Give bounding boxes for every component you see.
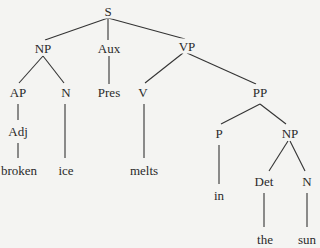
tree-node-n1: N bbox=[59, 85, 72, 100]
tree-node-n2: N bbox=[300, 174, 313, 189]
edge-vp-pp bbox=[187, 53, 256, 84]
tree-node-the: the bbox=[255, 232, 275, 247]
edge-np1-n1 bbox=[43, 56, 64, 83]
tree-node-det: Det bbox=[253, 174, 276, 189]
tree-node-ice: ice bbox=[56, 163, 75, 178]
tree-node-aux: Aux bbox=[96, 41, 122, 56]
tree-node-in: in bbox=[212, 188, 226, 203]
edge-pp-np2 bbox=[260, 104, 286, 124]
edge-s-vp bbox=[108, 18, 185, 39]
tree-node-np2: NP bbox=[280, 126, 301, 141]
tree-node-np1: NP bbox=[33, 41, 54, 56]
tree-node-adj: Adj bbox=[6, 124, 30, 139]
tree-node-broken: broken bbox=[0, 163, 39, 178]
edge-pp-p bbox=[221, 104, 260, 124]
tree-node-p: P bbox=[213, 126, 224, 141]
edge-np2-det bbox=[269, 141, 288, 171]
tree-node-pres: Pres bbox=[96, 85, 122, 100]
edge-vp-v bbox=[145, 53, 183, 83]
tree-node-s: S bbox=[102, 4, 113, 19]
edge-np1-ap bbox=[19, 56, 43, 83]
tree-node-pp: PP bbox=[251, 85, 269, 100]
tree-node-sun: sun bbox=[296, 232, 318, 247]
syntax-tree-diagram bbox=[0, 0, 320, 248]
edge-np2-n2 bbox=[290, 141, 305, 171]
tree-node-vp: VP bbox=[177, 39, 198, 54]
tree-node-melts: melts bbox=[128, 163, 160, 178]
tree-node-ap: AP bbox=[8, 85, 29, 100]
tree-node-v: V bbox=[136, 85, 149, 100]
edge-s-np1 bbox=[45, 18, 108, 40]
